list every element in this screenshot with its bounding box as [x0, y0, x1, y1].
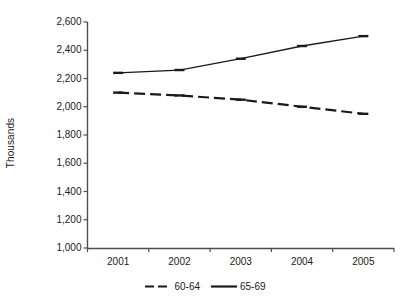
legend-swatch-solid: [211, 282, 237, 291]
legend-item-60-64: 60-64: [145, 281, 200, 292]
legend-swatch-dashed: [145, 282, 171, 291]
plot-area: [0, 0, 411, 306]
series-line-60-64: [118, 93, 363, 114]
axis-lines: [88, 22, 395, 249]
legend-label: 60-64: [174, 281, 200, 292]
series-line-65-69: [118, 36, 363, 73]
line-chart: Thousands 2,6002,4002,2002,0001,8001,600…: [0, 0, 411, 306]
chart-legend: 60-6465-69: [0, 281, 411, 292]
legend-item-65-69: 65-69: [211, 281, 266, 292]
data-series-group: [113, 36, 368, 114]
legend-label: 65-69: [240, 281, 266, 292]
